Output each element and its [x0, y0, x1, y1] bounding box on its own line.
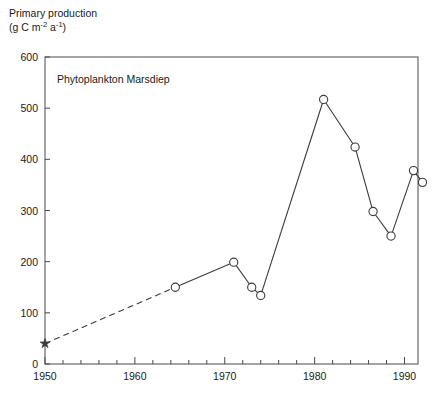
y-tick-label: 300 — [20, 205, 38, 217]
y-tick-label: 200 — [20, 256, 38, 268]
data-point-marker — [248, 283, 256, 291]
data-point-marker — [418, 178, 426, 186]
x-tick-label: 1980 — [303, 370, 327, 382]
data-markers — [40, 95, 427, 347]
data-point-marker — [257, 291, 265, 299]
data-point-marker — [351, 143, 359, 151]
y-tick-label: 0 — [32, 358, 38, 370]
data-line-segment — [391, 171, 413, 236]
plot-canvas: 0100200300400500600 19501960197019801990 — [0, 0, 435, 394]
data-point-marker — [409, 166, 417, 174]
data-point-marker — [171, 283, 179, 291]
data-point-marker — [320, 95, 328, 103]
y-tick-label: 500 — [20, 102, 38, 114]
data-line-segment — [45, 287, 175, 343]
x-tick-label: 1950 — [33, 370, 57, 382]
plot-frame — [45, 57, 418, 364]
data-line-segment — [324, 99, 355, 147]
data-line-segment — [261, 99, 324, 295]
y-tick-label: 400 — [20, 153, 38, 165]
x-tick-label: 1970 — [213, 370, 237, 382]
y-tick-label: 600 — [20, 51, 38, 63]
data-line-segment — [355, 147, 373, 211]
y-axis-ticks: 0100200300400500600 — [20, 51, 50, 370]
x-axis-ticks: 19501960197019801990 — [33, 357, 416, 382]
data-point-marker — [369, 207, 377, 215]
data-point-marker — [230, 258, 238, 266]
data-line-segment — [175, 262, 233, 287]
y-tick-label: 100 — [20, 307, 38, 319]
data-point-marker — [387, 232, 395, 240]
chart-figure: Primary production (g C m-2 a-1) Phytopl… — [0, 0, 435, 394]
data-line — [45, 99, 422, 343]
x-tick-label: 1960 — [123, 370, 147, 382]
x-tick-label: 1990 — [393, 370, 417, 382]
